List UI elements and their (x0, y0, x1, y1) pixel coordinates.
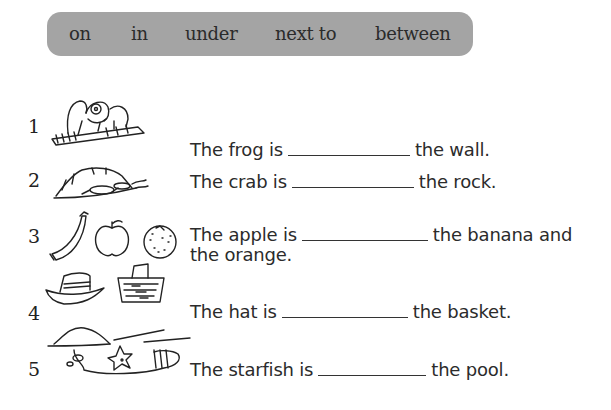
sentence-start: The crab is (190, 171, 287, 192)
sentence-start: The frog is (190, 139, 283, 160)
starfish-in-pool-icon (44, 320, 194, 384)
sentence-end: the pool. (431, 359, 509, 380)
sentence-4: The hat isthe basket. (190, 302, 511, 322)
sentence-start: The starfish is (190, 359, 313, 380)
exercise-number: 4 (28, 302, 40, 324)
word-on: on (69, 23, 91, 44)
frog-on-wall-icon (48, 95, 148, 149)
banana-apple-orange-icon (46, 212, 186, 266)
word-bank: on in under next to between (47, 12, 473, 56)
exercise-number: 3 (28, 225, 40, 247)
sentence-end: the rock. (419, 171, 497, 192)
answer-blank[interactable] (318, 374, 426, 376)
sentence-end: the banana and (433, 224, 572, 245)
word-in: in (131, 23, 148, 44)
answer-blank[interactable] (288, 154, 410, 156)
sentence-end: the basket. (413, 301, 512, 322)
sentence-3: The apple isthe banana and (190, 225, 572, 245)
sentence-2: The crab isthe rock. (190, 172, 496, 192)
crab-under-rock-icon (52, 162, 152, 206)
word-under: under (185, 23, 237, 44)
hat-next-to-basket-icon (44, 262, 184, 316)
sentence-end: the wall. (415, 139, 490, 160)
word-next-to: next to (275, 23, 336, 44)
sentence-3-continuation: the orange. (190, 245, 292, 265)
exercise-number: 5 (28, 358, 40, 380)
sentence-start: The apple is (190, 224, 297, 245)
answer-blank[interactable] (302, 239, 428, 241)
sentence-1: The frog isthe wall. (190, 140, 490, 160)
exercise-number: 1 (28, 115, 40, 137)
answer-blank[interactable] (282, 316, 408, 318)
word-between: between (375, 23, 451, 44)
sentence-start: The hat is (190, 301, 277, 322)
answer-blank[interactable] (292, 186, 414, 188)
exercise-number: 2 (28, 169, 40, 191)
sentence-5: The starfish isthe pool. (190, 360, 509, 380)
